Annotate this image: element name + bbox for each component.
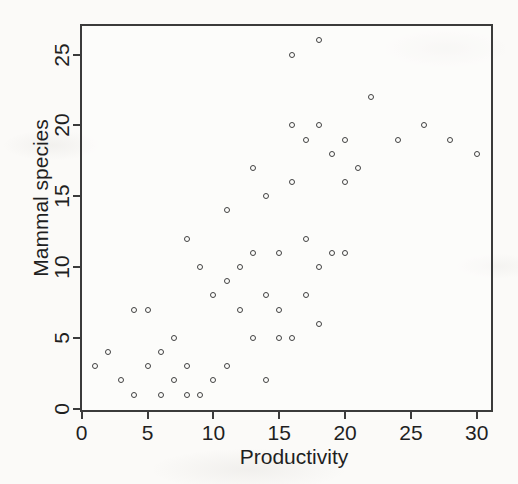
data-point — [171, 377, 177, 383]
data-point — [210, 292, 216, 298]
data-point — [342, 250, 348, 256]
data-point — [197, 392, 203, 398]
data-point — [158, 392, 164, 398]
x-axis-title: Productivity — [240, 446, 349, 467]
x-tick-label: 10 — [202, 422, 225, 443]
data-point — [342, 137, 348, 143]
data-point — [447, 137, 453, 143]
data-point — [276, 250, 282, 256]
data-point — [289, 52, 295, 58]
plot-area — [80, 24, 493, 412]
data-point — [105, 349, 111, 355]
data-point — [368, 94, 374, 100]
data-point — [276, 335, 282, 341]
x-tick-label: 30 — [465, 422, 488, 443]
data-point — [210, 377, 216, 383]
y-tick-label: 25 — [51, 43, 72, 66]
data-point — [303, 292, 309, 298]
data-point — [289, 122, 295, 128]
data-point — [395, 137, 401, 143]
x-tick-mark — [81, 412, 83, 419]
data-point — [342, 179, 348, 185]
y-tick-label: 15 — [51, 185, 72, 208]
x-tick-mark — [212, 412, 214, 419]
data-point — [184, 236, 190, 242]
data-point — [316, 122, 322, 128]
data-point — [421, 122, 427, 128]
x-tick-mark — [410, 412, 412, 419]
x-tick-label: 5 — [142, 422, 154, 443]
data-point — [316, 321, 322, 327]
scatter-figure: 0510152025300510152025 Productivity Mamm… — [0, 0, 518, 484]
y-tick-mark — [73, 195, 80, 197]
data-point — [263, 292, 269, 298]
data-point — [329, 151, 335, 157]
data-point — [118, 377, 124, 383]
x-tick-mark — [147, 412, 149, 419]
data-point — [303, 236, 309, 242]
data-point — [289, 179, 295, 185]
x-tick-label: 25 — [399, 422, 422, 443]
data-point — [289, 335, 295, 341]
data-point — [131, 307, 137, 313]
x-tick-mark — [344, 412, 346, 419]
data-point — [303, 137, 309, 143]
data-point — [263, 193, 269, 199]
data-point — [184, 392, 190, 398]
data-point — [131, 392, 137, 398]
data-point — [276, 307, 282, 313]
data-point — [237, 264, 243, 270]
y-tick-label: 20 — [51, 114, 72, 137]
data-point — [92, 363, 98, 369]
y-tick-mark — [73, 266, 80, 268]
data-point — [224, 363, 230, 369]
y-tick-mark — [73, 408, 80, 410]
y-tick-mark — [73, 54, 80, 56]
data-point — [145, 363, 151, 369]
x-tick-mark — [278, 412, 280, 419]
data-point — [250, 165, 256, 171]
x-tick-mark — [476, 412, 478, 419]
y-axis-title: Mammal species — [30, 119, 51, 277]
data-point — [197, 264, 203, 270]
data-point — [224, 278, 230, 284]
data-point — [316, 37, 322, 43]
data-point — [250, 250, 256, 256]
data-point — [250, 335, 256, 341]
data-point — [329, 250, 335, 256]
y-tick-label: 0 — [51, 403, 72, 415]
data-point — [355, 165, 361, 171]
data-point — [263, 377, 269, 383]
x-tick-label: 20 — [333, 422, 356, 443]
data-point — [474, 151, 480, 157]
y-tick-mark — [73, 337, 80, 339]
data-point — [171, 335, 177, 341]
data-point — [158, 349, 164, 355]
y-tick-label: 10 — [51, 255, 72, 278]
data-point — [224, 207, 230, 213]
data-point — [316, 264, 322, 270]
data-point — [237, 307, 243, 313]
x-tick-label: 0 — [76, 422, 88, 443]
y-tick-mark — [73, 124, 80, 126]
data-point — [184, 363, 190, 369]
x-tick-label: 15 — [268, 422, 291, 443]
y-tick-label: 5 — [51, 332, 72, 344]
data-point — [145, 307, 151, 313]
